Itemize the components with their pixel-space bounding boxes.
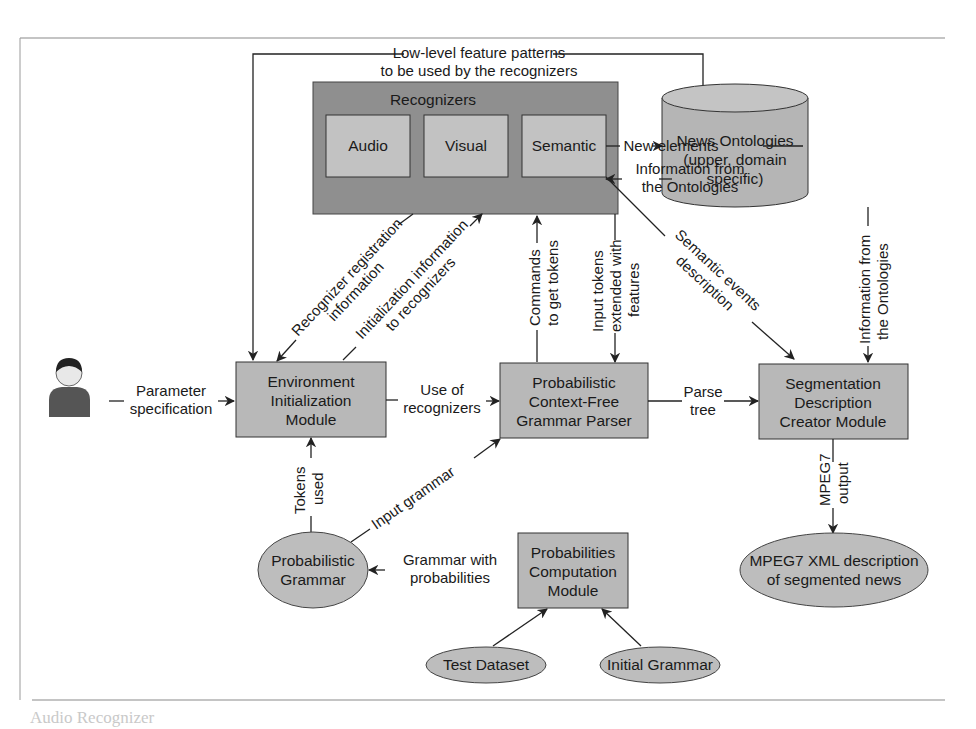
edge-label-parse-line1: Parse (683, 383, 722, 400)
recognizer-semantic-label: Semantic (532, 137, 597, 154)
edge-label-parse-line2: tree (690, 401, 716, 418)
edge-label-commands-line1: Commands (526, 249, 543, 326)
prob-comp-label-line1: Probabilities (531, 544, 616, 561)
edge-input-tokens: Input tokens extended with features (589, 214, 642, 362)
recognizers-container[interactable]: Recognizers Audio Visual Semantic (313, 82, 618, 214)
probabilistic-grammar-node[interactable]: Probabilistic Grammar (258, 532, 368, 608)
pcfg-parser-module[interactable]: Probabilistic Context-Free Grammar Parse… (500, 363, 648, 438)
edge-label-use-line1: Use of (420, 381, 464, 398)
recognizer-semantic[interactable]: Semantic (522, 115, 606, 177)
edge-label-tokens-line2: used (309, 472, 326, 505)
test-dataset-label: Test Dataset (443, 656, 530, 673)
edge-label-grammar-prob-line2: probabilities (410, 569, 490, 586)
mpeg7-xml-description-node[interactable]: MPEG7 XML description of segmented news (740, 533, 928, 607)
segmentation-module[interactable]: Segmentation Description Creator Module (759, 364, 908, 439)
segmentation-label-line3: Creator Module (780, 413, 887, 430)
edge-label-use-line2: recognizers (403, 399, 481, 416)
edge-commands-to-get-tokens: Commands to get tokens (526, 216, 561, 362)
env-init-module[interactable]: Environment Initialization Module (236, 362, 386, 437)
segmentation-label-line1: Segmentation (785, 375, 881, 392)
recognizer-audio-label: Audio (348, 137, 388, 154)
prob-comp-label-line2: Computation (529, 563, 617, 580)
edge-grammar-with-probabilities: Grammar with probabilities (369, 551, 532, 586)
edge-info-from-ontologies-vertical: Information from the Ontologies (856, 207, 891, 362)
diagram-canvas: Low-level feature patterns to be used by… (0, 0, 976, 729)
recognizer-visual-label: Visual (445, 137, 487, 154)
edge-parse-tree: Parse tree (648, 383, 758, 418)
edge-use-of-recognizers: Use of recognizers (386, 381, 499, 416)
edge-label-info-ontologies-h-line1: Information from (635, 160, 744, 177)
segmentation-label-line2: Description (794, 394, 872, 411)
edge-mpeg7-output: MPEG7 output (816, 439, 851, 533)
edge-label-input-tokens-line2: extended with (607, 239, 624, 332)
edge-label-info-ontologies-h-line2: the Ontologies (642, 178, 739, 195)
edge-label-param-line2: specification (130, 400, 213, 417)
edge-label-low-level-line2: to be used by the recognizers (381, 62, 578, 79)
user-icon (49, 358, 90, 417)
parser-label-line1: Probabilistic (532, 374, 616, 391)
edge-label-info-ontologies-v-line2: the Ontologies (874, 243, 891, 340)
edge-test-dataset (493, 609, 547, 646)
recognizer-audio[interactable]: Audio (326, 115, 410, 177)
edge-label-low-level-line1: Low-level feature patterns (393, 44, 566, 61)
edge-label-new-elements: New elements (623, 137, 718, 154)
edge-info-from-ontologies-horizontal: Information from the Ontologies (606, 160, 745, 195)
initial-grammar-node[interactable]: Initial Grammar (600, 647, 720, 683)
initial-grammar-label: Initial Grammar (607, 656, 713, 673)
section-heading-fragment: Audio Recognizer (30, 708, 154, 727)
edge-label-mpeg7-line1: MPEG7 (816, 453, 833, 506)
env-init-label-line3: Module (286, 411, 337, 428)
mpeg7-xml-label-line2: of segmented news (767, 571, 902, 588)
edge-initial-grammar (602, 609, 641, 646)
prob-comp-label-line3: Module (548, 582, 599, 599)
edge-label-input-tokens-line3: features (625, 263, 642, 317)
edge-label-param-line1: Parameter (136, 382, 206, 399)
env-init-label-line2: Initialization (271, 392, 352, 409)
user-actor[interactable] (49, 358, 90, 417)
prob-grammar-label-line2: Grammar (280, 571, 345, 588)
edge-tokens-used: Tokens used (291, 438, 326, 532)
env-init-label-line1: Environment (267, 373, 355, 390)
prob-computation-module[interactable]: Probabilities Computation Module (518, 533, 628, 608)
mpeg7-xml-label-line1: MPEG7 XML description (749, 552, 918, 569)
edge-input-grammar: Input grammar (351, 439, 500, 542)
recognizer-visual[interactable]: Visual (424, 115, 508, 177)
edge-label-tokens-line1: Tokens (291, 466, 308, 514)
edge-label-input-tokens-line1: Input tokens (589, 250, 606, 332)
edge-label-info-ontologies-v-line1: Information from (856, 235, 873, 344)
prob-grammar-label-line1: Probabilistic (271, 552, 355, 569)
edge-label-input-grammar: Input grammar (368, 463, 458, 533)
edge-label-grammar-prob-line1: Grammar with (403, 551, 497, 568)
test-dataset-node[interactable]: Test Dataset (426, 647, 546, 683)
architecture-diagram: Low-level feature patterns to be used by… (0, 0, 976, 729)
edge-label-commands-line2: to get tokens (544, 240, 561, 326)
parser-label-line3: Grammar Parser (516, 412, 631, 429)
edge-parameter-specification: Parameter specification (109, 382, 234, 417)
parser-label-line2: Context-Free (529, 393, 619, 410)
recognizers-title: Recognizers (390, 91, 476, 108)
edge-label-mpeg7-line2: output (834, 461, 851, 504)
